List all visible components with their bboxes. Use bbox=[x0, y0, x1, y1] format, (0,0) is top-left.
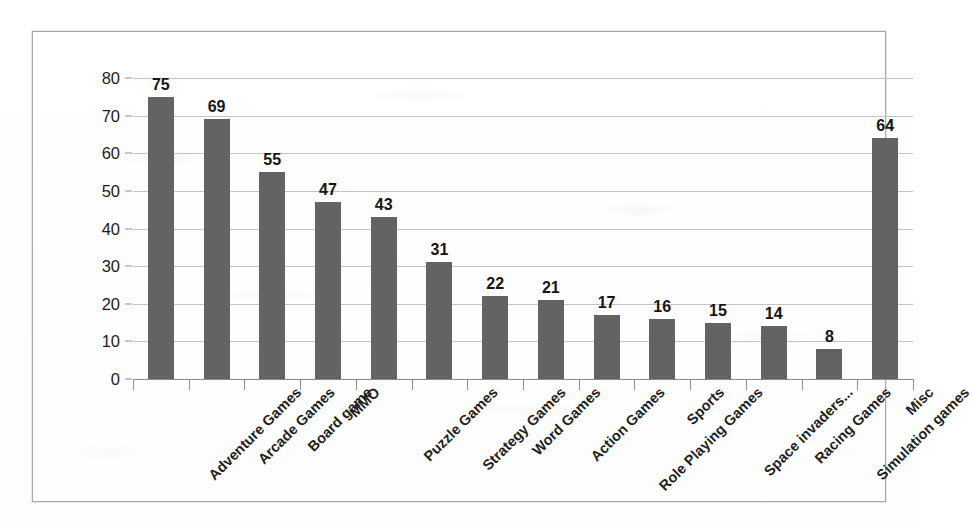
bar-slot[interactable]: 17 bbox=[579, 78, 635, 379]
bars-group: 756955474331222117161514864 bbox=[133, 78, 913, 379]
x-category-label: MMO bbox=[346, 384, 382, 420]
bar-slot[interactable]: 14 bbox=[746, 78, 802, 379]
bar[interactable] bbox=[538, 300, 564, 379]
y-tick-mark bbox=[125, 303, 132, 304]
bar-value-label: 8 bbox=[825, 328, 834, 346]
bar[interactable] bbox=[426, 262, 452, 379]
bar-slot[interactable]: 47 bbox=[300, 78, 356, 379]
bar-slot[interactable]: 31 bbox=[412, 78, 468, 379]
bar-slot[interactable]: 64 bbox=[857, 78, 913, 379]
bar-value-label: 21 bbox=[542, 279, 560, 297]
bar-slot[interactable]: 21 bbox=[523, 78, 579, 379]
y-tick-mark bbox=[125, 153, 132, 154]
bar[interactable] bbox=[649, 319, 675, 379]
bar-slot[interactable]: 16 bbox=[634, 78, 690, 379]
bar[interactable] bbox=[816, 349, 842, 379]
bar-value-label: 69 bbox=[208, 98, 226, 116]
bar-value-label: 16 bbox=[653, 298, 671, 316]
y-tick-mark bbox=[125, 78, 132, 79]
y-tick-label: 0 bbox=[111, 370, 120, 389]
bar-value-label: 14 bbox=[765, 305, 783, 323]
bar[interactable] bbox=[371, 217, 397, 379]
x-tick-mark bbox=[913, 379, 914, 390]
x-axis-category-labels: Adventure GamesArcade GamesBoard gameMMO… bbox=[133, 384, 913, 526]
bar-value-label: 17 bbox=[598, 294, 616, 312]
y-tick-label: 60 bbox=[102, 144, 120, 163]
bar[interactable] bbox=[315, 202, 341, 379]
bar-slot[interactable]: 22 bbox=[467, 78, 523, 379]
bar[interactable] bbox=[761, 326, 787, 379]
y-tick-mark bbox=[125, 190, 132, 191]
bar-slot[interactable]: 15 bbox=[690, 78, 746, 379]
y-tick-mark bbox=[125, 266, 132, 267]
bar[interactable] bbox=[204, 119, 230, 379]
chart-frame: 80706050403020100 7569554743312221171615… bbox=[32, 31, 886, 502]
bar-slot[interactable]: 55 bbox=[244, 78, 300, 379]
bar-slot[interactable]: 8 bbox=[802, 78, 858, 379]
bar-value-label: 47 bbox=[319, 181, 337, 199]
y-tick-label: 50 bbox=[102, 181, 120, 200]
y-tick-label: 40 bbox=[102, 219, 120, 238]
bar-slot[interactable]: 75 bbox=[133, 78, 189, 379]
bar-value-label: 31 bbox=[431, 241, 449, 259]
y-tick-mark bbox=[125, 341, 132, 342]
y-tick-label: 10 bbox=[102, 332, 120, 351]
bar-value-label: 55 bbox=[263, 151, 281, 169]
bar-value-label: 75 bbox=[152, 76, 170, 94]
bar[interactable] bbox=[259, 172, 285, 379]
y-tick-mark bbox=[125, 115, 132, 116]
y-tick-label: 20 bbox=[102, 294, 120, 313]
y-tick-label: 70 bbox=[102, 106, 120, 125]
bar[interactable] bbox=[594, 315, 620, 379]
y-tick-mark bbox=[125, 379, 132, 380]
plot-area: 80706050403020100 7569554743312221171615… bbox=[133, 78, 913, 379]
bar[interactable] bbox=[482, 296, 508, 379]
bar-value-label: 15 bbox=[709, 302, 727, 320]
bar-value-label: 43 bbox=[375, 196, 393, 214]
bar-value-label: 64 bbox=[876, 117, 894, 135]
y-tick-label: 30 bbox=[102, 257, 120, 276]
y-tick-mark bbox=[125, 228, 132, 229]
bar[interactable] bbox=[705, 323, 731, 379]
bar[interactable] bbox=[872, 138, 898, 379]
y-tick-label: 80 bbox=[102, 69, 120, 88]
bar-slot[interactable]: 69 bbox=[189, 78, 245, 379]
bar-value-label: 22 bbox=[486, 275, 504, 293]
bar[interactable] bbox=[148, 97, 174, 379]
bar-slot[interactable]: 43 bbox=[356, 78, 412, 379]
